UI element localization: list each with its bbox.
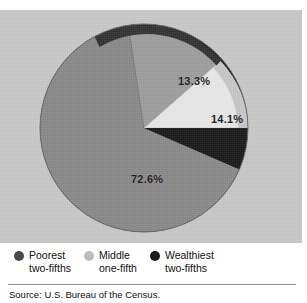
legend-label-middle-line2: one-fifth: [99, 262, 137, 275]
pie-svg: [38, 22, 250, 234]
legend-dot-icon-poorest: [14, 251, 24, 261]
legend-dot-icon-middle: [84, 251, 94, 261]
legend-label-wealthiest: Wealthiest two-fifths: [165, 249, 214, 274]
legend-item-poorest[interactable]: Poorest two-fifths: [14, 249, 71, 274]
legend-label-wealthiest-line2: two-fifths: [165, 262, 214, 275]
pie-label-poorest: 72.6%: [131, 173, 163, 185]
pie-label-middle: 13.3%: [178, 75, 210, 87]
legend-label-poorest-line2: two-fifths: [29, 262, 71, 275]
chart-legend: Poorest two-fifths Middle one-fifth Weal…: [0, 243, 302, 303]
legend-item-middle[interactable]: Middle one-fifth: [84, 249, 137, 274]
legend-label-wealthiest-line1: Wealthiest: [165, 249, 214, 261]
legend-item-wealthiest[interactable]: Wealthiest two-fifths: [150, 249, 214, 274]
legend-label-poorest-line1: Poorest: [29, 249, 65, 261]
legend-divider: [8, 284, 296, 285]
pie-graphic: 13.3% 14.1% 72.6%: [38, 22, 250, 234]
legend-label-middle-line1: Middle: [99, 249, 130, 261]
source-note: Source: U.S. Bureau of the Census.: [9, 289, 160, 300]
legend-dot-icon-wealthiest: [150, 251, 160, 261]
legend-label-poorest: Poorest two-fifths: [29, 249, 71, 274]
legend-label-middle: Middle one-fifth: [99, 249, 137, 274]
pie-label-wealthiest: 14.1%: [211, 113, 243, 125]
legend-items: Poorest two-fifths Middle one-fifth Weal…: [14, 249, 214, 274]
pie-chart-figure: 13.3% 14.1% 72.6% Poorest two-fifths Mid…: [0, 0, 307, 303]
chart-panel: 13.3% 14.1% 72.6%: [0, 10, 302, 243]
